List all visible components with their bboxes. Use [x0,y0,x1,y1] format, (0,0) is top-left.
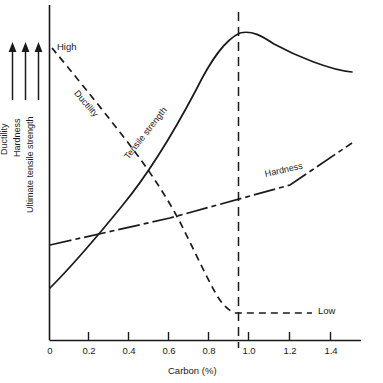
x-tick-label-0.2: 0.2 [77,346,101,356]
x-tick-label-1.2: 1.2 [278,346,302,356]
series-ductility [52,48,312,313]
x-axis-ticks [89,332,331,340]
x-tick-label-1.0: 1.0 [237,346,261,356]
chart-plot-area [0,0,383,383]
series-hardness [50,143,352,245]
y-axis-label-ultimate-tensile-strength: Ultimate tensile strength [26,116,35,213]
y-axis-arrow-group [9,42,43,100]
x-tick-label-0.6: 0.6 [157,346,181,356]
y-axis-label-hardness: Hardness [13,118,22,157]
x-tick-label-0: 0 [43,346,57,356]
y-axis-label-ductility: Ductility [0,123,9,155]
annotation-low: Low [318,306,335,316]
x-axis-title: Carbon (%) [168,366,217,376]
series-tensile-strength [50,32,352,288]
chart-figure: 0 0.2 0.4 0.6 0.8 1.0 1.2 1.4 Carbon (%)… [0,0,383,383]
annotation-high: High [57,42,77,52]
x-tick-label-0.8: 0.8 [197,346,221,356]
x-tick-label-1.4: 1.4 [319,346,343,356]
x-tick-label-0.4: 0.4 [117,346,141,356]
